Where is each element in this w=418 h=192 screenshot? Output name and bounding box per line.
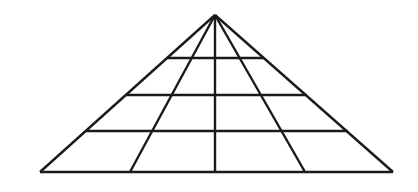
pyramid-figure	[0, 0, 418, 192]
pyramid-diagram-canvas	[0, 0, 418, 192]
